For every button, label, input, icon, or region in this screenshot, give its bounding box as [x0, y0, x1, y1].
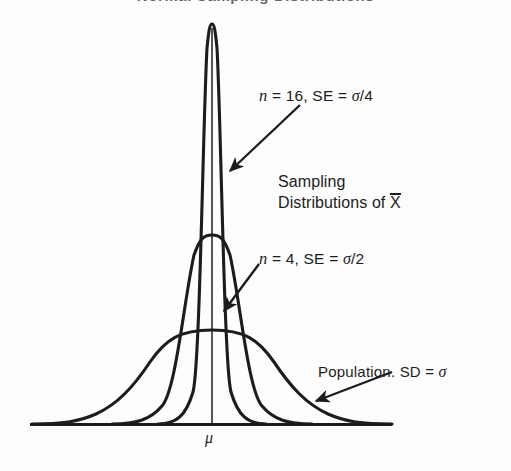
x-bar-symbol: X: [390, 192, 401, 213]
annotation-n4: n = 4, SE = σ/2: [259, 248, 364, 269]
n16-divisor: /4: [360, 87, 373, 104]
annotation-n16: n = 16, SE = σ/4: [259, 85, 373, 106]
sampling-dist-line2: Distributions of X: [278, 192, 401, 213]
mean-axis-label: μ: [205, 428, 213, 448]
population-sigma: σ: [439, 363, 447, 380]
n4-text: = 4, SE =: [267, 250, 342, 267]
n16-sigma: σ: [352, 87, 360, 104]
leader-arrow-n16: [230, 105, 300, 171]
annotation-population: Population. SD = σ: [318, 362, 447, 382]
sampling-dist-line1: Sampling: [278, 172, 401, 192]
figure-container: Normal Sampling Distributions n = 16, SE…: [0, 0, 511, 471]
sampling-dist-line2-prefix: Distributions of: [278, 194, 390, 211]
sampling-distribution-chart: [0, 0, 511, 471]
annotation-sampling-distributions: Sampling Distributions of X: [278, 172, 401, 214]
n16-text: = 16, SE =: [267, 87, 351, 104]
n4-sigma: σ: [343, 250, 351, 267]
leader-arrow-n4: [224, 264, 259, 311]
population-prefix: Population. SD =: [318, 363, 439, 380]
n4-divisor: /2: [351, 250, 364, 267]
